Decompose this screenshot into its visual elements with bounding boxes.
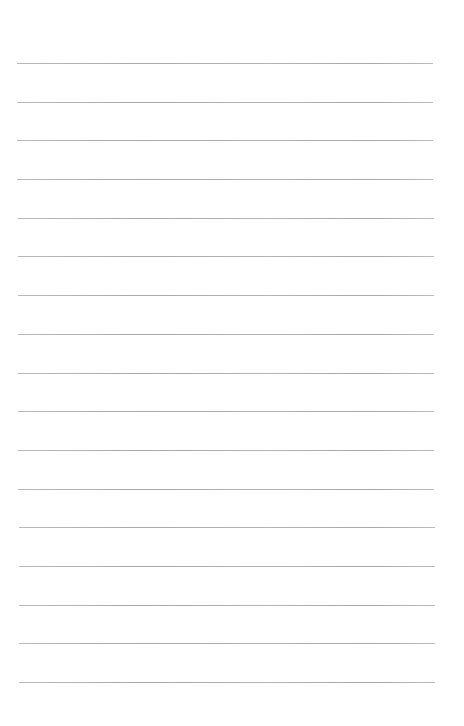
ruled-line <box>19 566 435 567</box>
ruled-line <box>17 102 433 103</box>
ruled-line <box>17 140 433 141</box>
ruled-line <box>17 179 433 180</box>
ruled-line <box>18 373 434 374</box>
ruled-line <box>18 256 434 257</box>
ruled-line <box>18 218 434 219</box>
ruled-line <box>19 527 435 528</box>
ruled-line <box>19 605 435 606</box>
ruled-line <box>18 489 434 490</box>
ruled-paper-sheet <box>0 0 464 726</box>
ruled-line <box>18 334 434 335</box>
ruled-line <box>19 643 435 644</box>
ruled-line <box>18 411 434 412</box>
ruled-line <box>18 295 434 296</box>
ruled-line <box>18 450 434 451</box>
ruled-line <box>17 63 433 64</box>
ruled-line <box>19 682 435 683</box>
